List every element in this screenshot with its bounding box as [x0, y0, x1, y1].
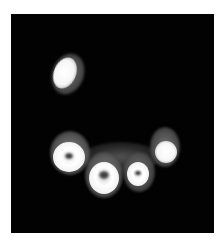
tooth-lower-left-pulp: [65, 153, 73, 159]
tooth-lower-small-pulp: [135, 171, 141, 175]
tooth-right-core: [155, 141, 177, 163]
ct-scan-image: [11, 14, 214, 233]
tooth-lower-middle-pulp: [99, 171, 109, 179]
